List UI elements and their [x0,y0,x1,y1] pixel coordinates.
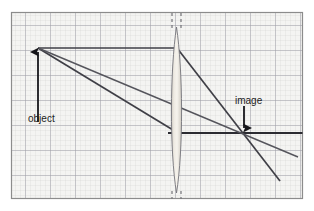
object-label: object [28,113,55,124]
image-label: image [235,95,263,106]
ray-diagram: object image [0,0,314,211]
figure-canvas: object image [0,0,314,211]
